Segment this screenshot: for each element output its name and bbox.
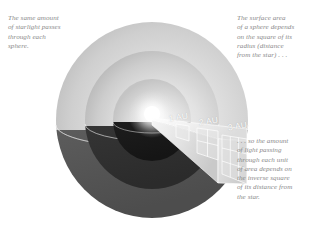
annotation-inverse-square: . . . so the amount of light passing thr… (237, 137, 321, 202)
inverse-square-law-figure: 1 AU 2 AU 3 AU The same amount of starli… (0, 0, 323, 233)
annotation-surface-area: The surface area of a sphere depends on … (237, 14, 321, 60)
annotation-same-starlight: The same amount of starlight passes thro… (8, 14, 104, 51)
